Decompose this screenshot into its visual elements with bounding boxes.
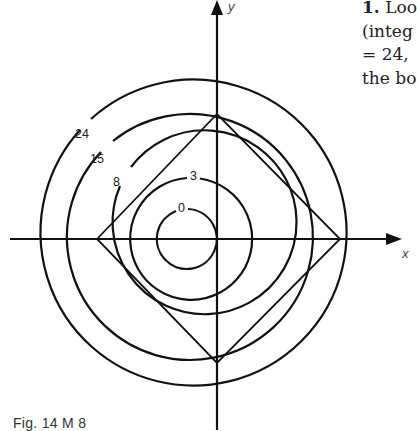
y-axis-arrow-icon <box>211 0 223 15</box>
y-axis-label: y <box>227 0 236 14</box>
text-line-1: 1. Loo <box>362 0 417 20</box>
x-axis-arrow-icon <box>386 233 402 245</box>
contour-label-15: 15 <box>90 152 104 166</box>
x-axis-label: x <box>401 246 409 261</box>
contour-label-3: 3 <box>190 169 197 183</box>
text-line-3: = 24, <box>362 43 417 67</box>
contour-label-8: 8 <box>113 175 120 189</box>
problem-number: 1. <box>362 0 380 17</box>
problem-text: 1. Loo (integ = 24, the bo <box>362 0 417 90</box>
text-line-2: (integ <box>362 20 417 44</box>
contour-8 <box>113 130 297 314</box>
contour-label-0: 0 <box>178 201 185 215</box>
contour-15 <box>67 114 313 360</box>
contour-label-24: 24 <box>75 127 89 141</box>
text-line-4: the bo <box>362 67 417 91</box>
figure-caption: Fig. 14 M 8 <box>13 415 86 431</box>
text-line-1-rest: Loo <box>380 0 417 17</box>
